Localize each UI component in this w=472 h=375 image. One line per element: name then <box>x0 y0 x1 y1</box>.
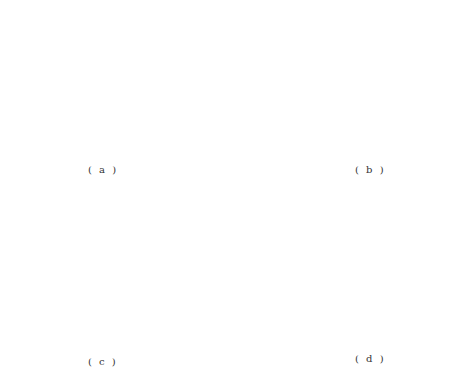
caption-b: ( b ) <box>355 164 386 175</box>
particle-flow-figure <box>0 0 472 375</box>
caption-c: ( c ) <box>88 356 118 367</box>
caption-a: ( a ) <box>88 164 118 175</box>
caption-d: ( d ) <box>355 353 386 364</box>
